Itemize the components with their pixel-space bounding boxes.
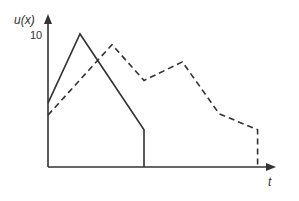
series-solid-line <box>48 34 144 167</box>
y-tick-10: 10 <box>30 29 42 41</box>
x-axis-label: t <box>268 175 271 189</box>
y-axis-label: u(x) <box>14 13 35 27</box>
x-axis-arrow-icon <box>266 163 276 171</box>
series-dashed-line <box>48 45 258 167</box>
y-axis-arrow-icon <box>44 14 52 24</box>
line-chart <box>0 0 299 201</box>
